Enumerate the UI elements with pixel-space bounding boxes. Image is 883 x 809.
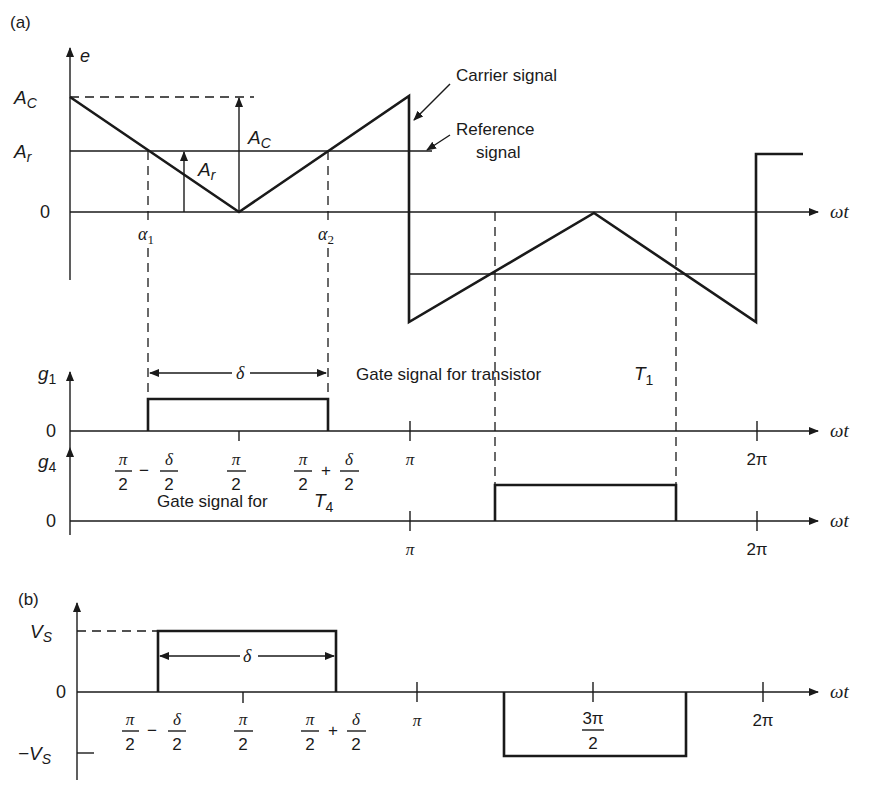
svg-text:2: 2: [351, 735, 360, 754]
svg-text:2: 2: [305, 735, 314, 754]
svg-text:2: 2: [344, 475, 353, 494]
pwm-diagram: (a) e ωt AC Ar 0 AC Ar α1 α2 Carrier sig…: [0, 0, 883, 809]
tick-label-right-b: π 2 + δ 2: [301, 710, 366, 754]
tick-label-left-b: π 2 − δ 2: [122, 710, 186, 754]
tick-label-mid: π 2: [227, 450, 246, 494]
alpha1-label: α1: [138, 224, 154, 247]
svg-text:π: π: [306, 710, 315, 729]
pi-tick-g4: π: [406, 540, 415, 559]
svg-text:δ: δ: [173, 710, 182, 729]
svg-text:2: 2: [298, 475, 307, 494]
panel-a: (a) e ωt AC Ar 0 AC Ar α1 α2 Carrier sig…: [10, 13, 849, 322]
svg-text:π: π: [299, 450, 308, 469]
svg-text:+: +: [321, 461, 331, 480]
panel-b-label: (b): [18, 590, 39, 609]
reference-label-2: signal: [476, 143, 520, 162]
alpha2-label: α2: [318, 224, 334, 247]
wt-label-g4: ωt: [830, 510, 849, 531]
two-pi-tick-g4: 2π: [746, 540, 767, 559]
svg-text:δ: δ: [352, 710, 361, 729]
pi-tick-b: π: [413, 711, 422, 730]
pi-tick-g1: π: [406, 450, 415, 469]
vs-label: VS: [30, 621, 53, 645]
ac-arrow-label: AC: [247, 127, 272, 151]
two-pi-tick-b: 2π: [752, 711, 773, 730]
tick-label-mid-b: π 2: [234, 710, 253, 754]
svg-text:π: π: [232, 450, 241, 469]
wt-label-a: ωt: [830, 201, 849, 222]
tick-label-left: π 2 − δ 2: [115, 450, 178, 494]
ar-tick-label: Ar: [13, 141, 33, 165]
svg-text:3π: 3π: [582, 709, 603, 728]
svg-text:−: −: [147, 721, 157, 740]
t1-label: T1: [634, 363, 654, 388]
svg-text:δ: δ: [165, 450, 174, 469]
ac-tick-label: AC: [13, 87, 38, 111]
svg-text:π: π: [119, 450, 128, 469]
delta-label-b: δ: [243, 646, 252, 666]
svg-text:2: 2: [118, 475, 127, 494]
e-axis-label: e: [80, 46, 90, 66]
svg-text:δ: δ: [345, 450, 354, 469]
delta-label-g1: δ: [236, 363, 245, 383]
gate-signal-g1: g1 0 ωt δ Gate signal for transistor T1 …: [38, 363, 849, 494]
zero-label-a: 0: [40, 202, 50, 222]
reference-label-1: Reference: [456, 120, 534, 139]
reference-callout-arrow: [427, 135, 450, 150]
g1-zero: 0: [46, 421, 56, 441]
svg-text:2: 2: [125, 735, 134, 754]
wt-label-b: ωt: [830, 681, 849, 702]
carrier-signal-label: Carrier signal: [456, 66, 557, 85]
zero-label-b: 0: [56, 682, 66, 702]
neg-vs-label: −VS: [18, 743, 52, 767]
gate-signal-g4: g4 0 ωt Gate signal for T4 π 2π: [38, 448, 849, 559]
panel-b: (b) ωt VS 0 −VS δ π 2 − δ 2 π 2: [18, 590, 849, 780]
g1-title: Gate signal for transistor: [356, 365, 542, 384]
g4-label: g4: [38, 451, 57, 475]
svg-text:−: −: [139, 461, 149, 480]
g1-label: g1: [38, 363, 57, 387]
ar-arrow-label: Ar: [197, 159, 217, 183]
svg-text:+: +: [328, 721, 338, 740]
tick-label-right: π 2 + δ 2: [294, 450, 359, 494]
g4-pulse: [495, 485, 676, 521]
carrier-signal: [70, 96, 803, 322]
carrier-callout-arrow: [414, 84, 450, 120]
tick-label-three-pi-over-2: 3π 2: [582, 709, 604, 753]
g4-title: Gate signal for: [157, 492, 268, 511]
svg-text:2: 2: [588, 734, 597, 753]
t4-label: T4: [314, 490, 334, 515]
two-pi-tick-g1: 2π: [746, 450, 767, 469]
svg-text:2: 2: [172, 735, 181, 754]
svg-text:2: 2: [238, 735, 247, 754]
svg-text:π: π: [126, 710, 135, 729]
g1-pulse: [148, 399, 328, 431]
svg-text:π: π: [239, 710, 248, 729]
panel-a-label: (a): [10, 13, 31, 32]
g4-zero: 0: [46, 511, 56, 531]
wt-label-g1: ωt: [830, 420, 849, 441]
